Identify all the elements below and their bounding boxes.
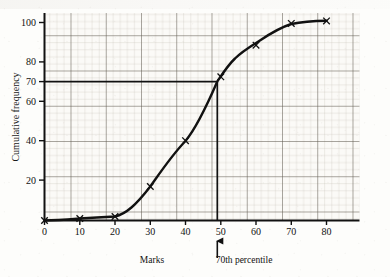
y-axis-tick-labels: 100 80 70 60 40 20: [21, 17, 36, 186]
x-axis-tick-labels: 0 10 20 30 40 50 60 70 80: [42, 226, 332, 237]
x-tick-label-20: 20: [110, 226, 120, 237]
x-tick-label-80: 80: [322, 226, 332, 237]
y-tick-label-60: 60: [26, 96, 36, 107]
x-tick-label-50: 50: [216, 226, 226, 237]
chart-svg: 100 80 70 60 40 20 Cumulative frequency …: [0, 0, 390, 277]
x-tick-label-40: 40: [181, 226, 191, 237]
x-tick-label-10: 10: [75, 226, 85, 237]
x-tick-label-0: 0: [42, 226, 47, 237]
percentile-annotation-label: 70th percentile: [216, 255, 273, 265]
x-tick-label-60: 60: [251, 226, 261, 237]
y-tick-label-20: 20: [26, 175, 36, 186]
y-tick-label-40: 40: [26, 135, 36, 146]
y-tick-label-100: 100: [21, 17, 36, 28]
cumulative-frequency-figure: 100 80 70 60 40 20 Cumulative frequency …: [0, 0, 390, 277]
y-tick-label-70: 70: [26, 76, 36, 87]
y-axis-title: Cumulative frequency: [10, 72, 21, 161]
x-tick-label-30: 30: [145, 226, 155, 237]
x-axis-title: Marks: [140, 255, 165, 265]
x-tick-label-70: 70: [286, 226, 296, 237]
y-tick-label-80: 80: [26, 56, 36, 67]
